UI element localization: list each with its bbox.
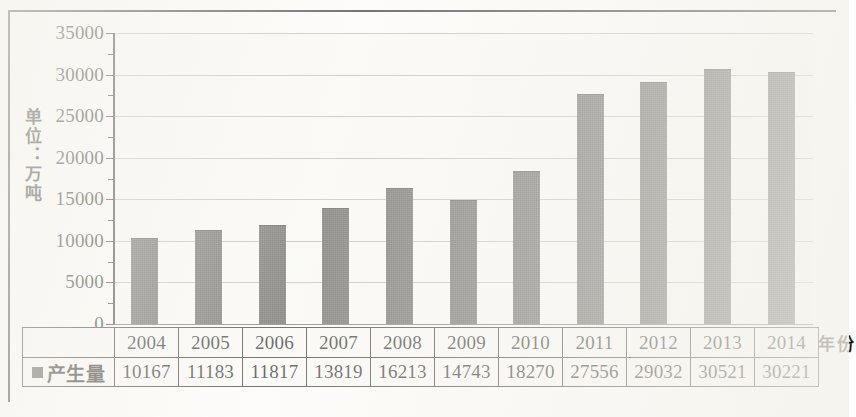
y-axis: 05000100001500020000250003000035000: [113, 33, 115, 325]
y-tick: [106, 75, 113, 76]
table-cell-value: 29032: [627, 358, 691, 387]
y-tick-label: 35000: [56, 22, 105, 44]
data-table: 2004200520062007200820092010201120122013…: [22, 327, 819, 387]
legend-label: 产生量: [47, 359, 105, 386]
y-minor-tick: [108, 95, 113, 96]
y-minor-tick: [108, 179, 113, 180]
y-axis-title: 单位：万吨: [14, 108, 40, 203]
table-cell-value: 30221: [755, 358, 819, 387]
table-cell-year: 2007: [307, 328, 371, 358]
table-cell-year: 2005: [179, 328, 243, 358]
y-tick: [106, 158, 113, 159]
table-cell-year: 2014: [755, 328, 819, 358]
y-tick: [106, 282, 113, 283]
y-tick-label: 15000: [56, 188, 105, 210]
table-cell-year: 2010: [499, 328, 563, 358]
bar: [513, 171, 540, 324]
bar: [386, 188, 413, 324]
legend-entry: 产生量: [23, 358, 115, 387]
y-tick-label: 5000: [65, 271, 104, 293]
bar: [259, 225, 286, 324]
bar: [768, 72, 795, 324]
table-cell-year: 2006: [243, 328, 307, 358]
y-tick-label: 10000: [56, 230, 105, 252]
bar: [577, 94, 604, 324]
plot-area: [113, 33, 813, 324]
table-cell-year: 2011: [563, 328, 627, 358]
y-minor-tick: [108, 262, 113, 263]
gridline: [113, 324, 813, 325]
bar: [450, 200, 477, 324]
y-tick-label: 20000: [56, 147, 105, 169]
table-cell-year: 2009: [435, 328, 499, 358]
table-cell-value: 30521: [691, 358, 755, 387]
y-tick: [106, 324, 113, 325]
y-tick: [106, 33, 113, 34]
table-cell-year: 2012: [627, 328, 691, 358]
y-minor-tick: [108, 220, 113, 221]
table-cell-value: 27556: [563, 358, 627, 387]
table-cell-value: 13819: [307, 358, 371, 387]
bar: [131, 238, 158, 324]
table-row-years: 2004200520062007200820092010201120122013…: [23, 328, 819, 358]
table-cell-value: 18270: [499, 358, 563, 387]
table-cell-value: 10167: [115, 358, 179, 387]
y-minor-tick: [108, 137, 113, 138]
bar: [195, 230, 222, 324]
table-corner-blank: [23, 328, 115, 358]
table-cell-year: 2008: [371, 328, 435, 358]
gridline: [113, 33, 813, 34]
y-minor-tick: [108, 54, 113, 55]
y-tick-label: 30000: [56, 64, 105, 86]
bar: [640, 82, 667, 324]
table-cell-value: 11817: [243, 358, 307, 387]
y-tick: [106, 116, 113, 117]
legend-swatch-icon: [32, 367, 43, 378]
table-cell-value: 14743: [435, 358, 499, 387]
table-cell-year: 2004: [115, 328, 179, 358]
x-axis-title: 年份: [818, 330, 856, 355]
bar: [704, 69, 731, 324]
table-row-values: 产生量 101671118311817138191621314743182702…: [23, 358, 819, 387]
y-tick: [106, 199, 113, 200]
table-cell-value: 16213: [371, 358, 435, 387]
table-cell-value: 11183: [179, 358, 243, 387]
y-minor-tick: [108, 303, 113, 304]
y-tick-label: 25000: [56, 105, 105, 127]
table-cell-year: 2013: [691, 328, 755, 358]
y-tick: [106, 241, 113, 242]
bar: [322, 208, 349, 324]
